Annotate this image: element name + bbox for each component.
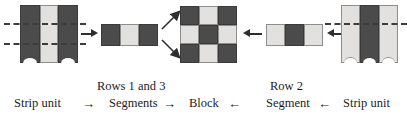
caption-arrow-segment-from-strip: ← xyxy=(318,97,331,110)
right-strip-3-light xyxy=(379,5,398,63)
block-cell-r1c1-dark xyxy=(180,6,199,25)
block-cell-r1c2-light xyxy=(199,6,218,25)
right-strip-unit xyxy=(341,5,398,63)
left-strip-2-light xyxy=(40,5,58,63)
left-cut-line-bottom xyxy=(4,43,86,45)
row2-patch-1-light xyxy=(266,24,285,46)
block-cell-r3c2-light xyxy=(199,44,218,63)
right-strip-2-dark xyxy=(360,5,379,63)
arrow-row2-to-block-head xyxy=(243,29,250,37)
block-cell-r2c2-dark xyxy=(199,25,218,44)
rows13-segment xyxy=(101,24,158,46)
row2-patch-2-dark xyxy=(285,24,304,46)
caption-arrow-segments-to-block: → xyxy=(163,97,176,110)
rows13-patch-1-dark xyxy=(101,24,120,46)
caption-segment: Segment xyxy=(266,97,310,110)
arrow-right-to-segment-head xyxy=(327,29,334,37)
row2-patch-3-light xyxy=(304,24,323,46)
arrow-row2-to-block-shaft xyxy=(249,33,262,35)
caption-right-strip-unit: Strip unit xyxy=(343,97,390,110)
rows13-patch-2-light xyxy=(120,24,139,46)
left-strip-unit xyxy=(20,5,78,63)
caption-arrow-block-from-segment: ← xyxy=(228,97,241,110)
caption-rows-1-and-3: Rows 1 and 3 xyxy=(97,80,165,93)
left-strip-3-dark xyxy=(58,5,78,63)
caption-left-strip-unit: Strip unit xyxy=(14,97,61,110)
figure-root: Rows 1 and 3 Row 2 Strip unit → Segments… xyxy=(0,0,407,121)
right-strip-1-light xyxy=(341,5,360,63)
caption-arrow-strip-to-segments: → xyxy=(82,97,95,110)
block-cell-r1c3-dark xyxy=(218,6,237,25)
block-cell-r3c3-dark xyxy=(218,44,237,63)
caption-row-2: Row 2 xyxy=(270,80,303,93)
left-cut-line-top xyxy=(4,23,86,25)
block-cell-r3c1-dark xyxy=(180,44,199,63)
arrow-left-to-segment-head xyxy=(91,29,98,37)
row2-segment xyxy=(266,24,323,46)
block-unit xyxy=(180,6,237,63)
left-strip-1-dark xyxy=(20,5,40,63)
caption-segments: Segments xyxy=(109,97,158,110)
rows13-patch-3-dark xyxy=(139,24,158,46)
block-cell-r2c1-light xyxy=(180,25,199,44)
block-cell-r2c3-light xyxy=(218,25,237,44)
caption-block: Block xyxy=(189,97,219,110)
right-cut-line xyxy=(325,23,407,25)
